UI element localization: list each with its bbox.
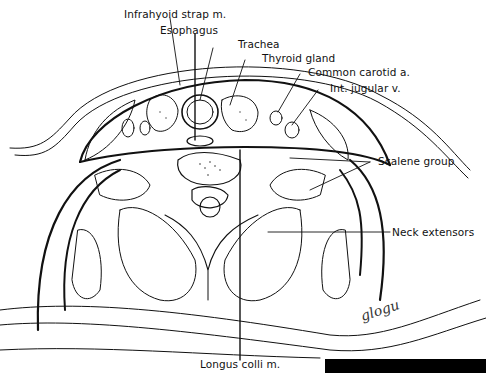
label-scalene-group: Scalene group — [378, 155, 455, 167]
label-common-carotid: Common carotid a. — [308, 66, 410, 78]
label-neck-extensors: Neck extensors — [392, 226, 474, 238]
label-int-jugular: Int. jugular v. — [330, 82, 401, 94]
black-bar — [325, 359, 486, 373]
label-infrahyoid-strap: Infrahyoid strap m. — [124, 8, 226, 20]
anatomy-diagram: Infrahyoid strap m. Esophagus Trachea Th… — [0, 0, 486, 373]
label-esophagus: Esophagus — [160, 24, 218, 36]
label-trachea: Trachea — [238, 38, 280, 50]
label-longus-colli: Longus colli m. — [200, 358, 280, 370]
label-thyroid-gland: Thyroid gland — [262, 52, 335, 64]
neck-cross-section-drawing — [0, 0, 486, 373]
